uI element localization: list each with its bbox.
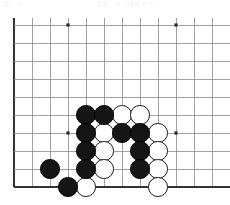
stone-black[interactable] <box>130 159 150 179</box>
stone-white[interactable] <box>148 123 168 143</box>
stone-black[interactable] <box>76 105 96 125</box>
stone-black[interactable] <box>112 123 132 143</box>
go-board[interactable] <box>0 14 230 205</box>
stone-white[interactable] <box>112 105 132 125</box>
stone-white[interactable] <box>148 177 168 197</box>
stone-black[interactable] <box>130 141 150 161</box>
star-point-icon <box>66 23 69 26</box>
stone-black[interactable] <box>76 123 96 143</box>
star-point-icon <box>174 23 177 26</box>
stone-white[interactable] <box>76 177 96 197</box>
stone-white[interactable] <box>94 159 114 179</box>
stone-white[interactable] <box>94 141 114 161</box>
stone-black[interactable] <box>94 105 114 125</box>
stone-white[interactable] <box>94 123 114 143</box>
stone-white[interactable] <box>148 141 168 161</box>
stone-white[interactable] <box>148 159 168 179</box>
diagram-caption-label: 黒番 白の味悪をつく <box>96 1 160 8</box>
diagram-number-label: 図２４ <box>4 1 23 8</box>
star-point-icon <box>66 131 69 134</box>
go-diagram-page: 図２４ 黒番 白の味悪をつく <box>0 0 230 205</box>
stone-white[interactable] <box>130 105 150 125</box>
stone-black[interactable] <box>76 141 96 161</box>
diagram-header: 図２４ 黒番 白の味悪をつく <box>0 0 230 14</box>
stone-black[interactable] <box>130 123 150 143</box>
star-point-icon <box>174 131 177 134</box>
stone-black[interactable] <box>76 159 96 179</box>
stone-black[interactable] <box>40 159 60 179</box>
stone-black[interactable] <box>58 177 78 197</box>
